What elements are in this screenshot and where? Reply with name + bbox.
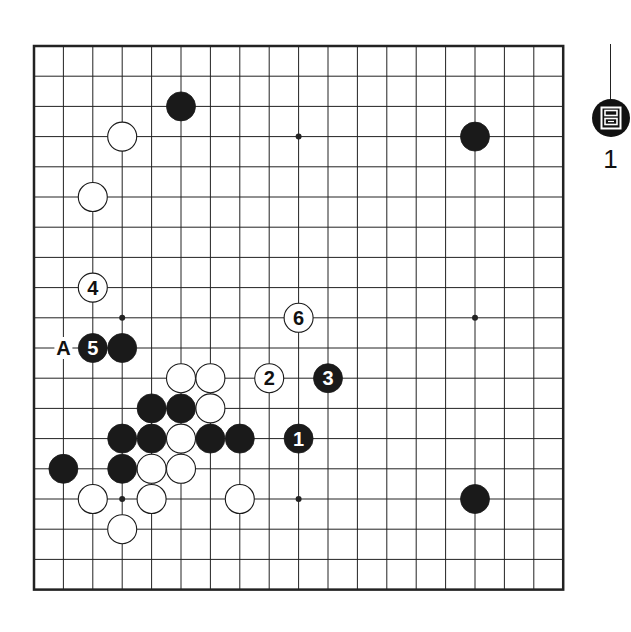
star-point bbox=[119, 315, 125, 321]
white-stone-move-6: 6 bbox=[284, 303, 313, 332]
black-stone bbox=[49, 454, 78, 483]
go-board: 465231 A bbox=[0, 0, 600, 632]
black-stone bbox=[137, 394, 166, 423]
star-point bbox=[119, 496, 125, 502]
black-stone bbox=[461, 485, 490, 514]
point-labels: A bbox=[54, 337, 72, 359]
white-stone bbox=[167, 424, 196, 453]
move-number: 5 bbox=[87, 337, 98, 359]
white-stone bbox=[167, 364, 196, 393]
white-stone bbox=[137, 485, 166, 514]
black-stone bbox=[196, 424, 225, 453]
white-stone bbox=[108, 515, 137, 544]
black-stone bbox=[225, 424, 254, 453]
black-stone bbox=[108, 424, 137, 453]
move-number: 1 bbox=[293, 428, 304, 450]
black-stone-move-5: 5 bbox=[78, 334, 107, 363]
black-stone bbox=[461, 122, 490, 151]
white-stone bbox=[196, 394, 225, 423]
white-stone bbox=[196, 364, 225, 393]
white-stone-move-2: 2 bbox=[255, 364, 284, 393]
star-point bbox=[472, 315, 478, 321]
white-stone-move-4: 4 bbox=[78, 273, 107, 302]
white-stone bbox=[108, 122, 137, 151]
white-stone bbox=[225, 485, 254, 514]
star-point bbox=[296, 134, 302, 140]
white-stone bbox=[78, 183, 107, 212]
move-number: 4 bbox=[87, 277, 99, 299]
point-label-a: A bbox=[56, 337, 70, 359]
figure-glyph-icon bbox=[600, 106, 622, 130]
black-stone bbox=[137, 424, 166, 453]
black-stone-move-3: 3 bbox=[314, 364, 343, 393]
move-number: 6 bbox=[293, 307, 304, 329]
white-stone bbox=[78, 485, 107, 514]
figure-marker-line bbox=[610, 44, 611, 102]
black-stone bbox=[167, 394, 196, 423]
black-stone bbox=[108, 454, 137, 483]
move-number: 3 bbox=[322, 367, 333, 389]
white-stone bbox=[167, 454, 196, 483]
black-stone bbox=[108, 334, 137, 363]
figure-marker: 1 bbox=[590, 40, 631, 180]
black-stone bbox=[167, 92, 196, 121]
figure-number: 1 bbox=[590, 144, 631, 175]
move-number: 2 bbox=[264, 367, 275, 389]
white-stone bbox=[137, 454, 166, 483]
star-point bbox=[296, 496, 302, 502]
black-stone-move-1: 1 bbox=[284, 424, 313, 453]
